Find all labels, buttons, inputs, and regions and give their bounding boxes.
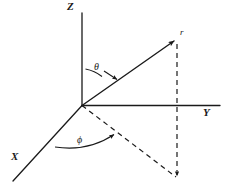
theta-angle-label: θ (94, 62, 99, 72)
phi-angle-label: ϕ (77, 135, 82, 145)
theta-pointer-arrow (104, 71, 117, 80)
x-axis-line (13, 106, 82, 182)
r-vector-line (82, 41, 174, 106)
spherical-coordinates-figure: Z Y X r θ ϕ (0, 0, 226, 188)
z-axis-label: Z (67, 1, 74, 12)
diagram-canvas (0, 0, 226, 188)
phi-arc (55, 135, 114, 149)
y-axis-label: Y (203, 107, 210, 118)
r-vector-label: r (180, 28, 184, 37)
x-axis-label: X (11, 151, 18, 162)
xy-projection-dashed-line (82, 106, 176, 178)
